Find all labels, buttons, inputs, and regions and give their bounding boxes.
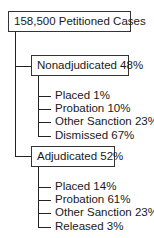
outcome-item: Other Sanction 23% (55, 116, 154, 128)
adjudicated-box: Adjudicated 52% (31, 146, 115, 167)
branch-connector-adjudicated (15, 156, 31, 157)
nonadjudicated-box: Nonadjudicated 48% (31, 55, 129, 76)
item-connector (38, 136, 51, 137)
root-box: 158,500 Petitioned Cases (8, 11, 131, 32)
root-label: 158,500 Petitioned Cases (14, 16, 146, 28)
item-connector (38, 109, 51, 110)
outcome-item: Probation 10% (55, 103, 130, 115)
adjudicated-sub-line (38, 167, 39, 228)
item-connector (38, 200, 51, 201)
adjudicated-label: Adjudicated 52% (37, 151, 123, 163)
item-connector (38, 122, 51, 123)
nonadjudicated-sub-line (38, 76, 39, 137)
outcome-item: Dismissed 67% (55, 130, 134, 142)
outcome-item: Placed 1% (55, 90, 110, 102)
trunk-line (15, 32, 16, 157)
outcome-item: Probation 61% (55, 194, 130, 206)
item-connector (38, 96, 51, 97)
outcome-item: Placed 14% (55, 181, 116, 193)
branch-connector-nonadjudicated (15, 66, 31, 67)
nonadjudicated-label: Nonadjudicated 48% (37, 60, 143, 72)
item-connector (38, 227, 51, 228)
item-connector (38, 213, 51, 214)
item-connector (38, 187, 51, 188)
outcome-item: Other Sanction 23% (55, 207, 154, 219)
outcome-item: Released 3% (55, 221, 123, 233)
